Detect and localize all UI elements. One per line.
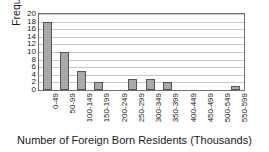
x-axis-title: Number of Foreign Born Residents (Thousa… <box>0 133 269 147</box>
x-tick-slot: 300-349 <box>142 91 159 133</box>
y-axis-tick-label: 12 <box>27 40 36 48</box>
x-tick-slot: 400-449 <box>176 91 193 133</box>
x-tick-slot: 350-399 <box>159 91 176 133</box>
y-axis-tick-label: 2 <box>32 78 36 86</box>
bar <box>146 79 155 90</box>
y-axis-tick-label: 0 <box>32 86 36 94</box>
y-axis-tick-label: 14 <box>27 33 36 41</box>
bar-slot <box>56 14 73 90</box>
y-axis-tick-label: 20 <box>27 10 36 18</box>
bar-slot <box>159 14 176 90</box>
x-tick-slot: 0-49 <box>38 91 55 133</box>
x-tick-slot: 100-149 <box>73 91 90 133</box>
x-tick-slot: 50-99 <box>55 91 72 133</box>
y-axis-tick-label: 8 <box>32 56 36 64</box>
x-axis-tick-labels: 0-4950-99100-149150-199200-249250-299300… <box>38 91 245 133</box>
bar-slot <box>193 14 210 90</box>
bar <box>231 86 240 90</box>
y-axis-tick-label: 18 <box>27 18 36 26</box>
bar-slot <box>90 14 107 90</box>
y-axis-tick-label: 6 <box>32 63 36 71</box>
bar-slot <box>176 14 193 90</box>
y-axis-title-container: Frequency <box>0 12 16 92</box>
y-axis-tick-label: 16 <box>27 25 36 33</box>
x-tick-slot: 500-549 <box>211 91 228 133</box>
x-axis-tick-label: 550-599 <box>240 93 249 122</box>
x-tick-slot: 550-599 <box>228 91 245 133</box>
y-axis-tick-label: 4 <box>32 71 36 79</box>
plot-area <box>38 13 245 91</box>
y-axis-tick-labels: 02468101214161820 <box>18 13 36 91</box>
bar <box>94 82 103 90</box>
bar-slot <box>227 14 244 90</box>
bar-slot <box>141 14 158 90</box>
bar-slot <box>210 14 227 90</box>
x-tick-slot: 200-249 <box>107 91 124 133</box>
x-tick-slot: 250-299 <box>124 91 141 133</box>
histogram-chart: Frequency 02468101214161820 0-4950-99100… <box>0 0 269 152</box>
bar-slot <box>73 14 90 90</box>
bar <box>128 79 137 90</box>
bar <box>77 71 86 90</box>
bar-slot <box>124 14 141 90</box>
y-axis-tick-label: 10 <box>27 48 36 56</box>
bar-slot <box>39 14 56 90</box>
bar <box>43 22 52 90</box>
bars-container <box>39 14 244 90</box>
bar-slot <box>107 14 124 90</box>
bar <box>163 82 172 90</box>
x-tick-slot: 450-499 <box>193 91 210 133</box>
x-tick-slot: 150-199 <box>90 91 107 133</box>
bar <box>60 52 69 90</box>
